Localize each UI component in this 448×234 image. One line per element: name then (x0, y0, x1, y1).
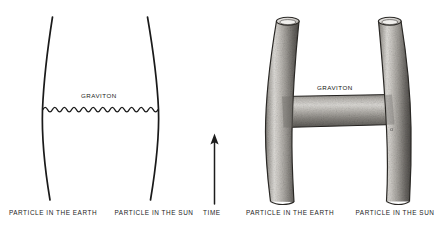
graviton-wavy-line (43, 107, 158, 111)
figure-canvas (0, 0, 448, 234)
caption-particle-earth-worldsheet: PARTICLE IN THE EARTH (235, 209, 345, 216)
feynman-diagram-panel (42, 17, 158, 200)
string-worldsheet-panel (266, 17, 412, 204)
graviton-label-worldsheet: GRAVITON (317, 84, 353, 91)
caption-particle-sun-feynman: PARTICLE IN THE SUN (107, 209, 201, 216)
physics-figure: GRAVITON PARTICLE IN THE EARTH PARTICLE … (0, 0, 448, 234)
graviton-tube (282, 95, 395, 128)
faint-mark-annotation: o (390, 126, 393, 132)
graviton-label-feynman: GRAVITON (81, 92, 117, 99)
time-arrow-icon (210, 134, 218, 205)
time-axis-label: TIME (203, 209, 221, 216)
caption-particle-earth-feynman: PARTICLE IN THE EARTH (6, 209, 100, 216)
caption-particle-sun-worldsheet: PARTICLE IN THE SUN (345, 209, 445, 216)
